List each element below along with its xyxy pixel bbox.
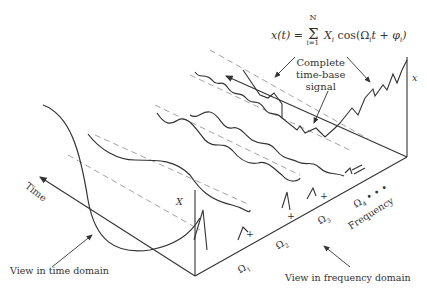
spike-4 [307, 188, 316, 199]
frequency-domain-caption: View in frequency domain [285, 272, 411, 283]
diagram-lines [0, 0, 427, 297]
spike-3 [282, 192, 290, 210]
plus-marker: + [246, 228, 254, 239]
amplitude-label: X [176, 196, 183, 207]
time-frequency-diagram: x(t) = N Σ i=1 Xi cos(Ωit + φi) Complete… [0, 0, 427, 297]
spike-5 [345, 168, 352, 174]
wave-4 [190, 112, 344, 176]
wave-3 [157, 113, 300, 181]
plus-marker: + [320, 190, 328, 201]
x-axis-label: x [412, 72, 417, 83]
complete-signal-label: Complete time-base signal [296, 57, 345, 93]
time-axis-line [40, 177, 195, 276]
signal-formula: x(t) = N Σ i=1 Xi cos(Ωit + φi) [271, 25, 407, 44]
plus-marker: + [287, 210, 295, 221]
time-domain-caption: View in time domain [10, 265, 109, 276]
spike-1 [194, 210, 207, 250]
